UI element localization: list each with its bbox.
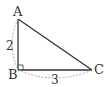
length-label-bc: 3 — [51, 73, 59, 87]
side-ac — [18, 19, 92, 70]
vertex-label-a: A — [12, 4, 23, 19]
right-angle-marker — [18, 65, 23, 70]
length-label-ab: 2 — [6, 39, 14, 53]
vertex-label-b: B — [8, 67, 18, 82]
vertex-label-c: C — [94, 62, 104, 77]
triangle-diagram: A B C 2 3 — [0, 0, 108, 87]
